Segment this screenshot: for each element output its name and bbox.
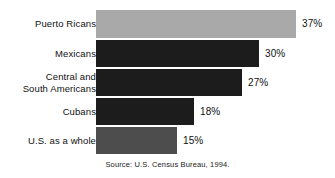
bar-row: U.S. as a whole 15%	[0, 127, 335, 154]
bar-central-south-americans	[96, 69, 242, 96]
bar-value-central-south-americans: 27%	[248, 78, 268, 88]
bar-chart: Puerto Ricans 37% Mexicans 30% Central a…	[0, 0, 335, 178]
bar-row: Cubans 18%	[0, 98, 335, 125]
category-label-us-as-a-whole: U.S. as a whole	[4, 135, 96, 147]
category-label-puerto-ricans: Puerto Ricans	[4, 18, 96, 30]
bar-value-cubans: 18%	[200, 107, 220, 117]
category-label-cubans: Cubans	[4, 106, 96, 118]
bar-row: Puerto Ricans 37%	[0, 10, 335, 38]
bar-row: Central and South Americans 27%	[0, 69, 335, 96]
bar-value-puerto-ricans: 37%	[302, 19, 322, 29]
bar-cubans	[96, 98, 194, 125]
plot-area: Puerto Ricans 37% Mexicans 30% Central a…	[0, 0, 335, 158]
bar-value-us-as-a-whole: 15%	[183, 136, 203, 146]
bar-us-as-a-whole	[96, 127, 177, 154]
category-label-mexicans: Mexicans	[4, 48, 96, 60]
bar-puerto-ricans	[96, 10, 296, 38]
bar-mexicans	[96, 40, 259, 67]
category-label-central-south-americans: Central and South Americans	[4, 71, 96, 94]
bar-row: Mexicans 30%	[0, 40, 335, 67]
bar-value-mexicans: 30%	[265, 49, 285, 59]
source-note: Source: U.S. Census Bureau, 1994.	[0, 160, 335, 169]
